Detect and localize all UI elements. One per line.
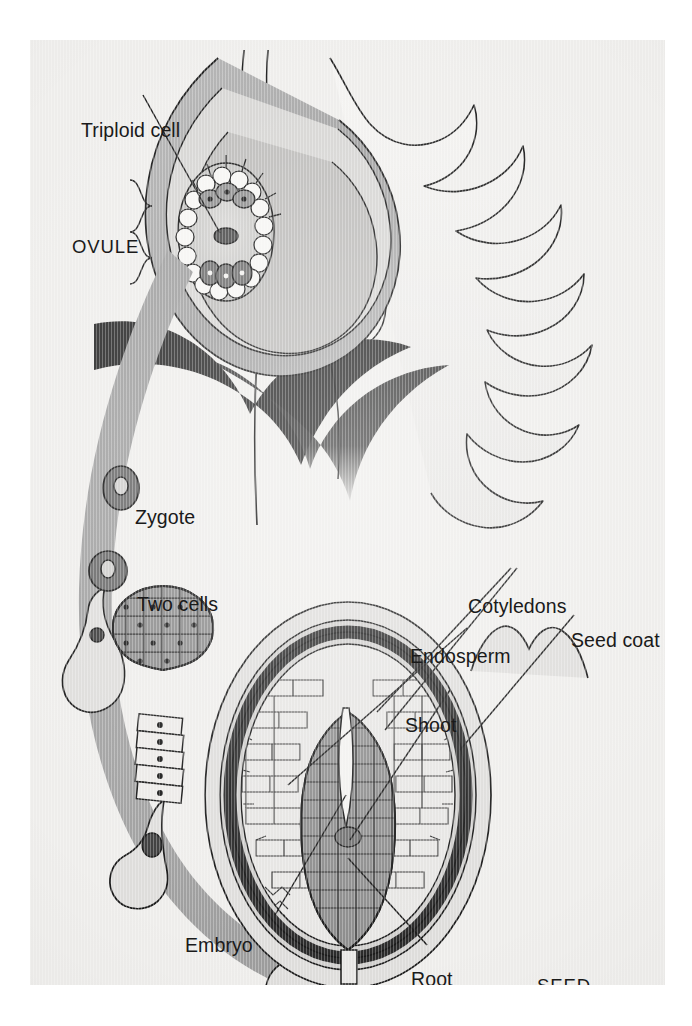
label-two-cells: Two cells [137,595,218,615]
label-seed: SEED [537,977,591,985]
label-embryo: Embryo [185,936,253,956]
figure-root: Triploid cell OVULE Zygote Two cells Emb… [0,0,692,1026]
label-shoot: Shoot [405,716,456,736]
label-zygote: Zygote [135,508,195,528]
diagram-artwork [30,40,665,985]
zygote-stage [103,466,139,510]
label-root: Root [411,970,453,985]
triploid-nucleus [214,228,238,244]
label-triploid-cell: Triploid cell [81,121,180,141]
antipodal-cells [200,261,252,288]
label-seed-coat: Seed coat [571,631,660,651]
label-endosperm: Endosperm [410,647,511,667]
label-cotyledons: Cotyledons [468,597,567,617]
illustration-plate: Triploid cell OVULE Zygote Two cells Emb… [30,40,665,985]
label-ovule: OVULE [72,238,139,257]
